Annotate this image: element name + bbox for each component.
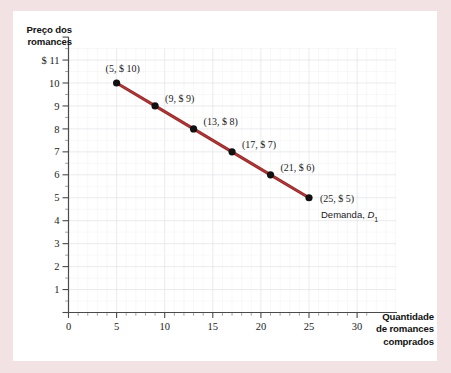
y-tick-label: 6: [54, 169, 59, 180]
data-point-label: (25, $ 5): [320, 193, 354, 205]
y-axis-title: Preço dos romances: [10, 24, 72, 49]
y-tick-label: 4: [54, 215, 60, 226]
data-point: [305, 194, 312, 201]
data-point: [190, 125, 197, 132]
figure-container: 051015202530$ 1110987654321 (5, $ 10)(9,…: [0, 0, 451, 373]
data-point-label: (13, $ 8): [204, 116, 238, 128]
data-point: [113, 79, 120, 86]
demand-curve-label: Demanda, D1: [321, 209, 378, 223]
axis-ticks: [63, 37, 367, 318]
x-axis-title: Quantidade de romances comprados: [330, 311, 434, 348]
y-tick-label: 10: [49, 78, 60, 89]
data-point-label: (5, $ 10): [106, 63, 140, 75]
curve-annotation: Demanda, D1: [321, 209, 378, 223]
data-point: [228, 148, 235, 155]
x-tick-label: 25: [304, 321, 315, 332]
y-tick-label: 1: [54, 284, 59, 295]
y-tick-label: 5: [54, 192, 59, 203]
x-tick-label: 10: [159, 321, 170, 332]
data-point-label: (21, $ 6): [281, 162, 315, 174]
y-tick-label: 7: [54, 146, 59, 157]
data-point-labels: (5, $ 10)(9, $ 9)(13, $ 8)(17, $ 7)(21, …: [106, 63, 355, 205]
y-tick-label: 3: [54, 238, 59, 249]
x-tick-label: 5: [114, 321, 119, 332]
x-tick-label: 0: [66, 321, 71, 332]
x-tick-label: 20: [256, 321, 267, 332]
data-point: [151, 102, 158, 109]
axis-tick-labels: 051015202530$ 1110987654321: [42, 55, 363, 332]
y-tick-label: 9: [54, 101, 59, 112]
x-tick-label: 15: [208, 321, 219, 332]
data-point-label: (9, $ 9): [165, 93, 194, 105]
y-tick-label: 8: [54, 124, 59, 135]
y-tick-label: $ 11: [42, 55, 60, 66]
data-point: [267, 171, 274, 178]
data-point-label: (17, $ 7): [242, 139, 276, 151]
y-tick-label: 2: [54, 261, 59, 272]
gridlines: [69, 48, 397, 313]
